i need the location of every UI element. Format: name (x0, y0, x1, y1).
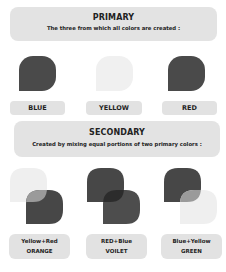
green-mix-diagram (164, 168, 219, 226)
green-label: Blue+Yellow GREEN (161, 234, 222, 259)
secondary-subtitle: Created by mixing equal portions of two … (14, 141, 220, 147)
violet-label: RED+Blue VOILET (86, 234, 147, 259)
blue-swatch (19, 56, 56, 91)
orange-formula: Yellow+Red (9, 236, 70, 246)
orange-mix-diagram (10, 168, 65, 226)
blue-label: BLUE (10, 101, 65, 115)
violet-formula: RED+Blue (86, 236, 147, 246)
violet-mix-diagram (87, 168, 142, 226)
secondary-title: SECONDARY (14, 128, 220, 137)
red-swatch (168, 56, 205, 91)
yellow-label: YELLOW (86, 101, 142, 115)
orange-label: Yellow+Red ORANGE (9, 234, 70, 259)
orange-result: ORANGE (9, 246, 70, 256)
red-label: RED (162, 101, 217, 115)
green-result: GREEN (161, 246, 222, 256)
green-formula: Blue+Yellow (161, 236, 222, 246)
yellow-swatch (96, 56, 133, 91)
secondary-header: SECONDARY Created by mixing equal portio… (14, 121, 220, 157)
violet-result: VOILET (86, 246, 147, 256)
primary-subtitle: The three from which all colors are crea… (10, 25, 217, 31)
primary-title: PRIMARY (10, 13, 217, 22)
primary-header: PRIMARY The three from which all colors … (10, 7, 217, 41)
